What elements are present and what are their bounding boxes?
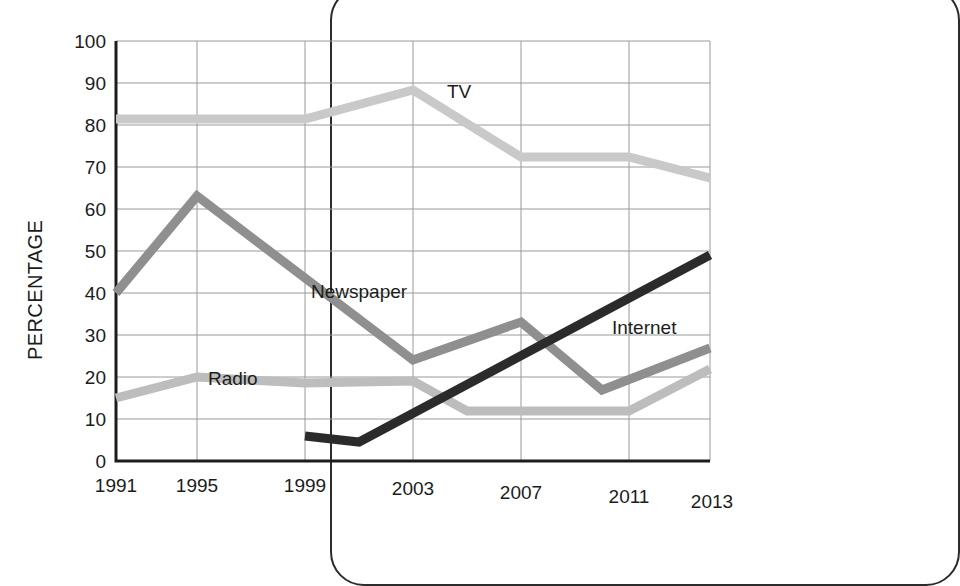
ytick-30: 30 [85, 325, 106, 346]
xtick-2007: 2007 [500, 482, 542, 503]
series-label-radio: Radio [208, 368, 258, 389]
series-label-tv: TV [447, 81, 472, 102]
xtick-1991: 1991 [95, 475, 137, 496]
y-axis-tick-labels: 100 90 80 70 60 50 40 30 20 10 0 [74, 31, 106, 472]
ytick-20: 20 [85, 367, 106, 388]
series-label-newspaper: Newspaper [311, 281, 408, 302]
xtick-2003: 2003 [392, 478, 434, 499]
xtick-2011: 2011 [609, 486, 650, 507]
ytick-80: 80 [85, 115, 106, 136]
xtick-2013: 2013 [691, 491, 733, 512]
ytick-10: 10 [85, 409, 106, 430]
ytick-50: 50 [85, 241, 106, 262]
ytick-40: 40 [85, 283, 106, 304]
ytick-70: 70 [85, 157, 106, 178]
ytick-60: 60 [85, 199, 106, 220]
xtick-1999: 1999 [284, 475, 326, 496]
ytick-90: 90 [85, 73, 106, 94]
ytick-0: 0 [95, 451, 106, 472]
series-label-internet: Internet [612, 317, 677, 338]
xtick-1995: 1995 [176, 475, 218, 496]
y-axis-title: PERCENTAGE [24, 220, 46, 360]
x-axis-tick-labels: 1991 1995 1999 2003 2007 2011 2013 [95, 475, 733, 512]
ytick-100: 100 [74, 31, 106, 52]
